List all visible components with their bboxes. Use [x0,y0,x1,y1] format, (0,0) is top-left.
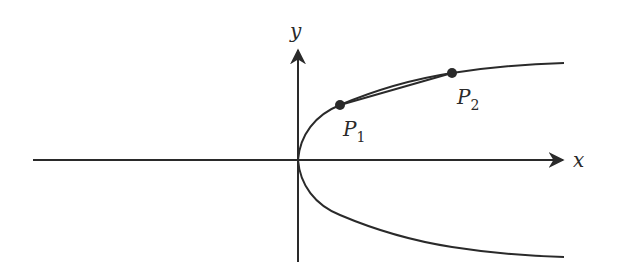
p2-name: P [456,85,471,109]
p1-name: P [342,117,357,141]
curve-upper-branch [298,63,564,160]
point-p2 [447,68,457,78]
x-axis-label: x [573,148,584,172]
p2-label: P2 [456,85,479,113]
curve-lower-branch [298,160,564,257]
p2-subscript: 2 [470,97,479,113]
point-p1 [335,100,345,110]
secant-line [340,73,452,105]
p1-subscript: 1 [356,129,365,145]
p1-label: P1 [342,117,365,145]
y-axis-label: y [289,19,302,43]
diagram-canvas: y x P1 P2 [0,0,617,277]
